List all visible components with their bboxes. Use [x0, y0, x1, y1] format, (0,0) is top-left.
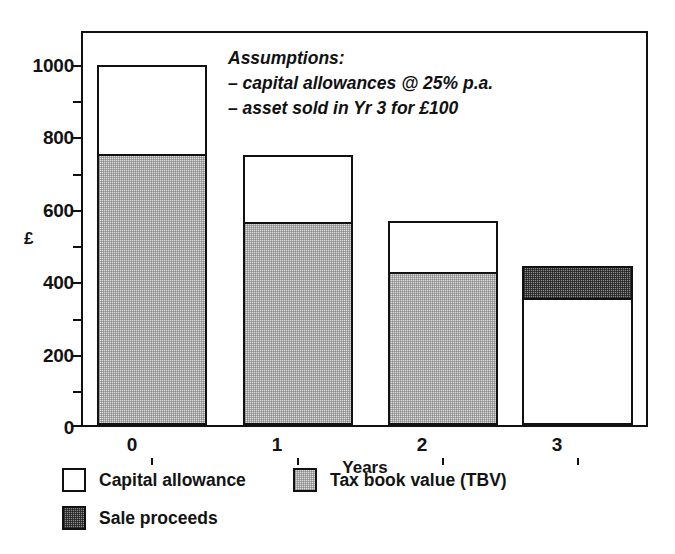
y-tick-500	[73, 246, 81, 248]
y-tick-800	[72, 137, 83, 139]
legend-item-tbv: Tax book value (TBV)	[293, 468, 507, 492]
legend-swatch-tbv-icon	[293, 468, 317, 492]
bar-1-segment-tbv	[243, 222, 353, 425]
bar-group-year-0	[97, 65, 207, 425]
assumptions-heading: Assumptions:	[228, 46, 493, 71]
y-tick-label-400: 400	[12, 272, 74, 294]
x-tick-label-3: 3	[536, 434, 578, 456]
y-tick-label-200: 200	[12, 345, 74, 367]
y-tick-700	[73, 174, 81, 176]
bar-0-segment-capital-allowance	[97, 65, 207, 156]
assumptions-annotation: Assumptions: – capital allowances @ 25% …	[228, 46, 493, 121]
y-axis-title: £	[24, 229, 33, 249]
y-tick-label-600: 600	[12, 200, 74, 222]
bar-group-year-2	[388, 221, 498, 425]
y-tick-400	[72, 282, 83, 284]
y-tick-label-1000: 1000	[12, 55, 74, 77]
bar-group-year-1	[243, 155, 353, 425]
y-tick-100	[73, 391, 81, 393]
chart-figure: 1000 800 600 400 200 0 £	[0, 0, 675, 554]
y-tick-0	[72, 425, 83, 427]
assumptions-line-2: – asset sold in Yr 3 for £100	[228, 96, 493, 121]
plot-area: Assumptions: – capital allowances @ 25% …	[81, 31, 648, 427]
bar-2-segment-capital-allowance	[388, 221, 498, 274]
legend-swatch-capital-allowance-icon	[62, 468, 86, 492]
x-tick-label-1: 1	[256, 434, 298, 456]
bar-group-year-3	[522, 266, 633, 425]
bar-3-segment-capital-allowance	[522, 298, 633, 425]
legend-item-capital-allowance: Capital allowance	[62, 468, 246, 492]
bar-3-segment-sale-proceeds	[522, 266, 633, 300]
y-tick-label-800: 800	[12, 127, 74, 149]
assumptions-line-1: – capital allowances @ 25% p.a.	[228, 71, 493, 96]
x-tick-3	[577, 458, 579, 465]
y-tick-600	[72, 210, 83, 212]
legend-swatch-sale-proceeds-icon	[62, 506, 86, 530]
y-tick-1000	[72, 65, 83, 67]
bar-1-segment-capital-allowance	[243, 155, 353, 224]
y-tick-200	[72, 355, 83, 357]
y-tick-label-0: 0	[12, 417, 74, 439]
x-tick-label-2: 2	[401, 434, 443, 456]
x-tick-label-0: 0	[111, 434, 153, 456]
legend-label-sale-proceeds: Sale proceeds	[99, 508, 218, 529]
bar-0-segment-tbv	[97, 154, 207, 425]
x-tick-0	[151, 458, 153, 465]
y-tick-900	[73, 101, 81, 103]
bar-2-segment-tbv	[388, 272, 498, 425]
legend-label-capital-allowance: Capital allowance	[99, 470, 246, 491]
legend-item-sale-proceeds: Sale proceeds	[62, 506, 218, 530]
legend-label-tbv: Tax book value (TBV)	[330, 470, 507, 491]
y-tick-300	[73, 319, 81, 321]
